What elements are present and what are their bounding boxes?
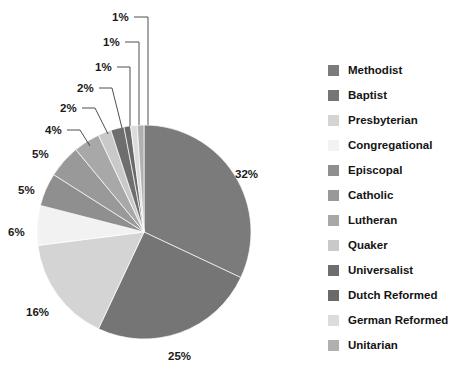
pie-chart-figure: 32%25%16%6%5%5%4%2%2%1%1%1% MethodistBap… [0,0,456,371]
legend-item[interactable]: Quaker [328,233,456,258]
legend-item[interactable]: Universalist [328,258,456,283]
pie-slice-value-label: 1% [103,36,120,48]
legend-color-swatch [328,90,339,101]
pie-slice-value-label: 2% [77,82,94,94]
legend-color-swatch [328,65,339,76]
legend-color-swatch [328,240,339,251]
pie-slice-value-label: 6% [8,226,25,238]
legend-item-label: Methodist [348,65,402,77]
pie-slice-value-label: 1% [95,61,112,73]
legend-color-swatch [328,340,339,351]
legend-color-swatch [328,140,339,151]
chart-legend: MethodistBaptistPresbyterianCongregation… [328,58,456,358]
legend-item-label: Episcopal [348,165,402,177]
pie-slice-value-label: 16% [26,306,49,318]
legend-item-label: German Reformed [348,315,448,327]
pie-slice-value-label: 5% [18,184,35,196]
legend-item-label: Baptist [348,90,387,102]
legend-item[interactable]: Unitarian [328,333,456,358]
legend-item-label: Quaker [348,240,388,252]
legend-item[interactable]: Presbyterian [328,108,456,133]
pie-slice-value-label: 1% [112,11,129,23]
legend-item-label: Unitarian [348,340,398,352]
legend-color-swatch [328,215,339,226]
legend-color-swatch [328,315,339,326]
pie-slice-value-label: 25% [168,350,191,362]
legend-color-swatch [328,190,339,201]
legend-item-label: Universalist [348,265,413,277]
legend-item[interactable]: Lutheran [328,208,456,233]
legend-item[interactable]: Episcopal [328,158,456,183]
legend-item[interactable]: German Reformed [328,308,456,333]
legend-item-label: Lutheran [348,215,397,227]
legend-item[interactable]: Catholic [328,183,456,208]
leader-line [82,108,108,134]
legend-color-swatch [328,165,339,176]
legend-color-swatch [328,290,339,301]
legend-item[interactable]: Congregational [328,133,456,158]
legend-item[interactable]: Methodist [328,58,456,83]
leader-line [125,42,139,125]
legend-item[interactable]: Baptist [328,83,456,108]
pie-slice-value-label: 32% [235,168,258,180]
pie-slice-value-label: 2% [60,102,77,114]
legend-item-label: Catholic [348,190,393,202]
pie-slice-value-label: 5% [32,148,49,160]
legend-item-label: Dutch Reformed [348,290,437,302]
legend-color-swatch [328,115,339,126]
leader-line [134,17,148,125]
legend-item-label: Presbyterian [348,115,418,127]
legend-item[interactable]: Dutch Reformed [328,283,456,308]
pie-slice-value-label: 4% [45,124,62,136]
legend-item-label: Congregational [348,140,432,152]
legend-color-swatch [328,265,339,276]
pie-slices-group [37,125,251,339]
